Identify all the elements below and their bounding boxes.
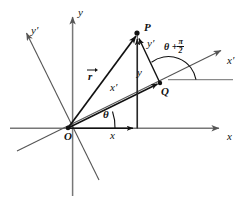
theta-angle-arc bbox=[113, 112, 116, 129]
theta-plus-half-pi-angle-arc bbox=[152, 57, 197, 80]
vector-overbar-arrow-icon bbox=[87, 67, 98, 73]
point-p-marker bbox=[134, 30, 139, 35]
x-component-label: x bbox=[110, 130, 115, 141]
y-prime-axis-label: y′ bbox=[31, 25, 38, 36]
coordinate-rotation-figure: y x y′ x′ O P Q r x′ y′ y x θ θ +π2 bbox=[0, 0, 241, 219]
x-axis-label: x bbox=[227, 131, 232, 142]
x-prime-axis-line bbox=[17, 51, 221, 152]
y-component-label: y bbox=[137, 67, 142, 78]
y-axis-label: y bbox=[78, 7, 83, 18]
y-prime-component-label: y′ bbox=[147, 38, 154, 49]
theta-angle-label: θ bbox=[103, 109, 109, 120]
x-prime-component-label: x′ bbox=[110, 82, 117, 93]
point-p-label: P bbox=[144, 22, 151, 33]
vector-r-label: r bbox=[88, 71, 92, 82]
x-prime-axis-label: x′ bbox=[227, 55, 234, 66]
theta-plus-text: θ + bbox=[164, 41, 177, 52]
vector-r-arrow bbox=[68, 36, 136, 128]
theta-plus-half-pi-label: θ +π2 bbox=[164, 38, 184, 56]
pi-over-two-fraction: π2 bbox=[177, 38, 183, 56]
point-q-label: Q bbox=[161, 86, 169, 97]
y-prime-axis-line bbox=[27, 33, 100, 180]
origin-label: O bbox=[64, 131, 72, 142]
